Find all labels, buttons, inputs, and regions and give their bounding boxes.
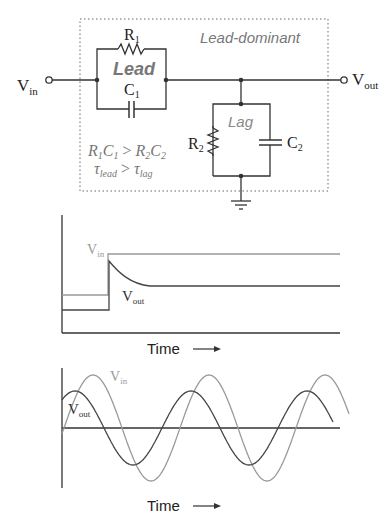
r2-label: R2 <box>188 135 204 154</box>
box-title: Lead-dominant <box>200 29 301 46</box>
vout-terminal-label: Vout <box>352 70 378 91</box>
tau-inequality: τlead > τlag <box>94 160 153 179</box>
vin-label: Vin <box>87 242 105 259</box>
lag-network: R2 Lag C2 <box>188 80 303 209</box>
lag-label: Lag <box>228 113 254 130</box>
time-constant-inequality: R1C1 > R2C2 <box>87 142 166 161</box>
vin-label: Vin <box>110 369 128 386</box>
arrow-right-icon <box>193 346 221 352</box>
time-axis-label: Time <box>147 497 180 514</box>
vin-step-trace <box>62 254 340 295</box>
step-response-plot: Vin Vout Time <box>62 215 340 357</box>
lead-label: Lead <box>113 59 156 79</box>
lead-network: R1 Lead C1 <box>97 26 166 118</box>
time-axis-label: Time <box>147 340 180 357</box>
vout-terminal <box>341 77 347 83</box>
arrow-right-icon <box>193 503 221 509</box>
c2-label: C2 <box>287 134 303 153</box>
r1-resistor-icon <box>118 44 144 54</box>
lead-lag-diagram: Lead-dominant Vin R1 Lead C1 Vout <box>0 0 392 524</box>
c1-label: C1 <box>124 81 140 100</box>
ground-icon <box>231 201 251 209</box>
sine-response-plot: Vin Vout Time <box>62 368 349 514</box>
vout-step-trace <box>62 261 340 310</box>
r1-label: R1 <box>124 26 140 45</box>
vout-label: Vout <box>122 288 145 306</box>
vout-label: Vout <box>68 401 91 419</box>
vin-terminal <box>46 77 52 83</box>
vin-terminal-label: Vin <box>17 76 38 97</box>
